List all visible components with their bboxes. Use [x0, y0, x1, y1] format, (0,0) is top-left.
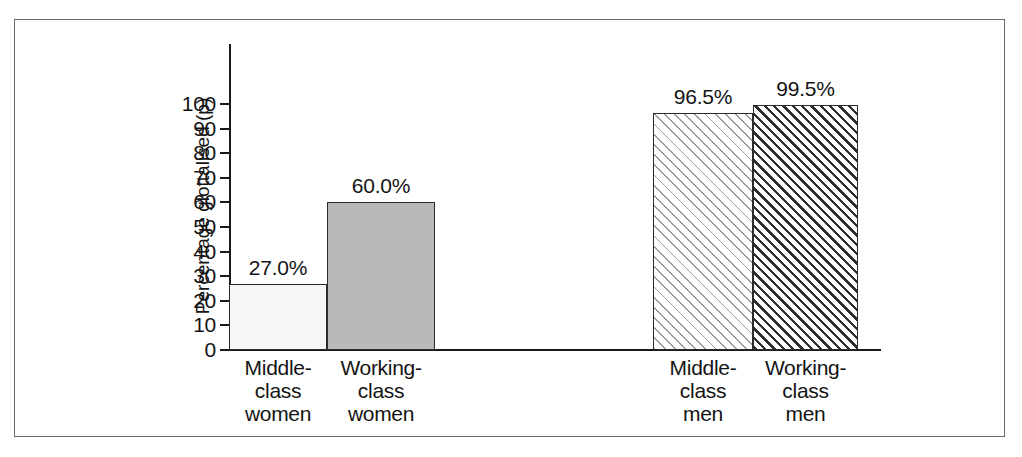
x-category-label: Working- class men	[737, 356, 874, 425]
bar-chart-plot: 0102030405060708090100 Percentage glotta…	[15, 20, 1006, 438]
x-category-label: Working- class women	[311, 356, 451, 425]
y-axis-title: Percentage glottalised (p)	[192, 61, 214, 351]
y-tick-mark	[220, 201, 229, 203]
y-tick-mark	[220, 103, 229, 105]
y-tick-mark	[220, 324, 229, 326]
bars-layer: 27.0%60.0%96.5%99.5%	[229, 44, 881, 350]
y-tick-mark	[220, 152, 229, 154]
bar	[229, 284, 327, 350]
bar-value-label: 99.5%	[741, 78, 870, 99]
y-tick-mark	[220, 177, 229, 179]
figure-frame: 0102030405060708090100 Percentage glotta…	[14, 19, 1005, 437]
bar	[327, 202, 435, 350]
bar-value-label: 60.0%	[315, 175, 447, 196]
y-tick-mark	[220, 226, 229, 228]
y-axis-title-wrap: Percentage glottalised (p)	[165, 20, 195, 360]
bar-value-label: 27.0%	[217, 257, 339, 278]
y-tick-mark	[220, 128, 229, 130]
bar	[753, 105, 858, 350]
y-tick-mark	[220, 300, 229, 302]
y-tick-mark	[220, 349, 229, 351]
y-tick-mark	[220, 251, 229, 253]
x-axis-category-labels: Middle- class womenWorking- class womenM…	[229, 356, 881, 436]
bar	[653, 113, 753, 350]
